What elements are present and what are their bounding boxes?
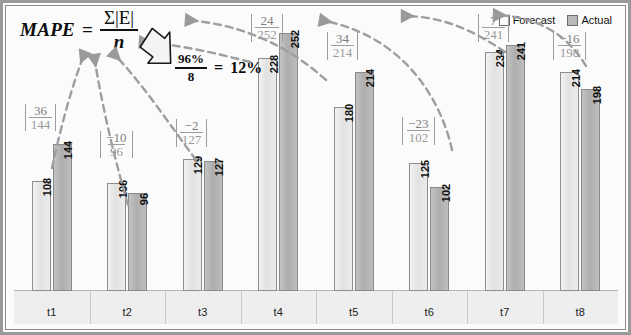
error-fraction-t3: −2127 (173, 119, 211, 147)
error-denominator: 96 (108, 144, 125, 158)
bar-actual-t7: 241 (506, 45, 525, 291)
bar-value-label: 252 (289, 30, 301, 48)
result-denominator: 8 (175, 67, 207, 84)
abs-bar-right (508, 14, 509, 42)
legend-item-actual: Actual (567, 14, 612, 26)
bar-value-label: 144 (62, 141, 74, 159)
fraction-body: 34214 (331, 32, 355, 60)
error-fraction-t5: 34214 (324, 32, 362, 60)
error-numerator: −16 (557, 32, 581, 45)
abs-bar-right (434, 117, 435, 145)
bar-value-label: 102 (440, 184, 452, 202)
abs-bar-right (357, 32, 358, 60)
abs-bar-right (585, 32, 586, 60)
bar-value-label: 108 (41, 177, 53, 195)
screenshot-root: Forecast Actual t1t2t3t4t5t6t7t8 1081441… (0, 0, 631, 335)
category-label-t7: t7 (467, 306, 543, 318)
fraction-body: 24252 (255, 14, 279, 42)
bar-actual-t8: 198 (581, 89, 600, 291)
abs-bar-left (100, 131, 101, 159)
error-denominator: 102 (407, 130, 431, 144)
abs-bar-left (478, 14, 479, 42)
abs-bar-right (55, 104, 56, 132)
error-denominator: 241 (482, 27, 506, 41)
bar-actual-t6: 102 (430, 187, 449, 291)
bar-forecast-t1: 108 (32, 181, 51, 291)
abs-bar-left (402, 117, 403, 145)
error-numerator: −23 (406, 117, 430, 130)
error-numerator: −10 (104, 131, 128, 144)
category-label-t8: t8 (543, 306, 619, 318)
abs-bar-left (25, 104, 26, 132)
error-numerator: 36 (32, 104, 49, 117)
error-denominator: 214 (331, 45, 355, 59)
error-fraction-t6: −23102 (399, 117, 437, 145)
error-denominator: 252 (255, 27, 279, 41)
abs-bar-right (206, 119, 207, 147)
abs-bar-left (327, 32, 328, 60)
fraction-body: −23102 (406, 117, 430, 145)
bar-forecast-t4: 228 (258, 58, 277, 291)
error-fraction-t2: −1096 (97, 131, 135, 159)
category-label-t4: t4 (241, 306, 317, 318)
category-label-t1: t1 (14, 306, 90, 318)
fraction-body: −2127 (180, 119, 204, 147)
error-fraction-t8: −16198 (550, 32, 588, 60)
error-denominator: 144 (29, 117, 53, 131)
legend-label-actual: Actual (581, 14, 612, 26)
bar-actual-t3: 127 (204, 161, 223, 291)
result-equals: = (214, 59, 223, 77)
error-numerator: 7 (488, 14, 499, 27)
abs-bar-right (282, 14, 283, 42)
bar-value-label: 241 (515, 41, 527, 59)
result-numerator: 96% (175, 52, 207, 67)
chart-legend: Forecast Actual (499, 14, 612, 26)
category-label-t5: t5 (316, 306, 392, 318)
legend-label-forecast: Forecast (513, 14, 556, 26)
abs-bar-left (251, 14, 252, 42)
error-denominator: 127 (180, 132, 204, 146)
bar-value-label: 129 (192, 156, 204, 174)
mape-formula: MAPE = Σ|E| n (20, 8, 138, 52)
bar-actual-t2: 96 (128, 193, 147, 291)
formula-fraction: Σ|E| n (100, 8, 138, 52)
formula-name: MAPE (20, 19, 75, 41)
fraction-body: 36144 (29, 104, 53, 132)
bar-value-label: 125 (419, 160, 431, 178)
bar-value-label: 127 (213, 158, 225, 176)
category-label-t3: t3 (165, 306, 241, 318)
bar-actual-t4: 252 (279, 33, 298, 291)
abs-bar-right (132, 131, 133, 159)
error-numerator: −2 (183, 119, 201, 132)
bar-value-label: 106 (117, 179, 129, 197)
bar-actual-t5: 214 (355, 72, 374, 291)
bar-value-label: 96 (138, 193, 150, 205)
bar-forecast-t2: 106 (107, 183, 126, 291)
bar-forecast-t3: 129 (183, 159, 202, 291)
formula-numerator: Σ|E| (100, 8, 138, 29)
error-numerator: 34 (334, 32, 351, 45)
bar-value-label: 214 (364, 69, 376, 87)
bar-value-label: 198 (591, 85, 603, 103)
error-numerator: 24 (259, 14, 276, 27)
bar-forecast-t5: 180 (334, 107, 353, 291)
bar-actual-t1: 144 (53, 144, 72, 291)
abs-bar-left (176, 119, 177, 147)
bar-value-label: 180 (343, 104, 355, 122)
fraction-body: −16198 (557, 32, 581, 60)
bar-forecast-t6: 125 (409, 163, 428, 291)
bar-forecast-t7: 234 (485, 52, 504, 291)
bar-value-label: 234 (494, 49, 506, 67)
formula-equals: = (82, 19, 93, 41)
abs-bar-left (553, 32, 554, 60)
chart-plot-area: Forecast Actual t1t2t3t4t5t6t7t8 1081441… (14, 12, 618, 324)
bar-value-label: 228 (268, 55, 280, 73)
bar-value-label: 214 (570, 69, 582, 87)
category-label-t6: t6 (392, 306, 468, 318)
mape-result: 96% 8 = 12% (175, 52, 262, 83)
fraction-body: −1096 (104, 131, 128, 159)
error-denominator: 198 (558, 45, 582, 59)
category-label-t2: t2 (90, 306, 166, 318)
fraction-body: 7241 (482, 14, 506, 42)
actual-swatch-icon (567, 15, 578, 26)
